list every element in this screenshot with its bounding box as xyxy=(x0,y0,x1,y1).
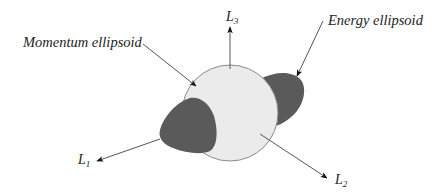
l1-axis-label: L1 xyxy=(77,152,90,169)
l1-main: L xyxy=(77,152,86,167)
l1-axis-arrow xyxy=(97,139,160,161)
energy-ellipsoid-label: Energy ellipsoid xyxy=(327,12,424,28)
l2-main: L xyxy=(334,172,343,187)
momentum-pointer-arrow xyxy=(143,44,196,86)
momentum-ellipsoid-label: Momentum ellipsoid xyxy=(22,34,143,50)
l1-sub: 1 xyxy=(86,159,91,169)
ellipsoid-diagram: Momentum ellipsoid Energy ellipsoid L3 L… xyxy=(0,0,440,193)
l2-sub: 2 xyxy=(343,179,348,189)
energy-ellipsoid-left-lobe xyxy=(160,98,217,153)
l3-sub: 3 xyxy=(233,16,239,26)
energy-pointer-arrow xyxy=(297,21,323,76)
l3-main: L xyxy=(225,9,234,24)
l2-axis-label: L2 xyxy=(334,172,348,189)
l2-axis-arrow xyxy=(260,134,327,178)
l3-axis-label: L3 xyxy=(225,9,239,26)
